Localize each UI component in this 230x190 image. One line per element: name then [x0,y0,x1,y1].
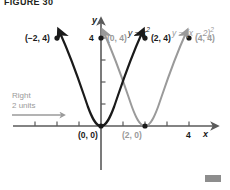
shift-annotation: Right 2 units [12,91,36,111]
x-tick-label-4: 4 [186,131,191,140]
curve-label-original: y = x2 [128,27,150,37]
point-label-2-4: (2, 4) [151,34,171,43]
x-axis-label: x [203,130,208,139]
y-tick-label-4: 4 [89,34,94,43]
y-axis-label: y [92,16,97,25]
point-label-0-4: (0, 4) [107,34,127,43]
figure-root: FIGURE 30 [0,0,230,190]
point-0-0 [98,123,103,128]
point-0-4 [98,35,103,40]
page-corner-swatch [205,175,221,182]
point-neg2-4 [54,35,59,40]
point-label-neg2-4: (−2, 4) [25,34,50,43]
shift-annotation-line1: Right [12,91,36,101]
y-axis [101,22,106,170]
point-label-2-0: (2, 0) [122,131,142,140]
point-label-4-4: (4, 4) [195,34,215,43]
x-axis [13,122,214,127]
shift-annotation-line2: 2 units [12,101,36,111]
point-2-0 [142,123,147,128]
point-label-0-0: (0, 0) [78,131,98,140]
curve-shifted [105,34,186,126]
